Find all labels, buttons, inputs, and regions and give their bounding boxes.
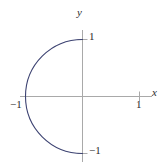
tick-label-y-positive-one: 1 (89, 31, 95, 42)
tick-label-y-negative-one: −1 (89, 145, 101, 156)
x-axis-label: x (152, 87, 157, 98)
tick-label-x-negative-one: −1 (10, 99, 22, 110)
plot-figure: y x 1 −1 −1 1 (0, 0, 168, 168)
plot-canvas (0, 0, 168, 168)
y-axis-label: y (77, 7, 82, 18)
tick-label-x-positive-one: 1 (136, 99, 142, 110)
